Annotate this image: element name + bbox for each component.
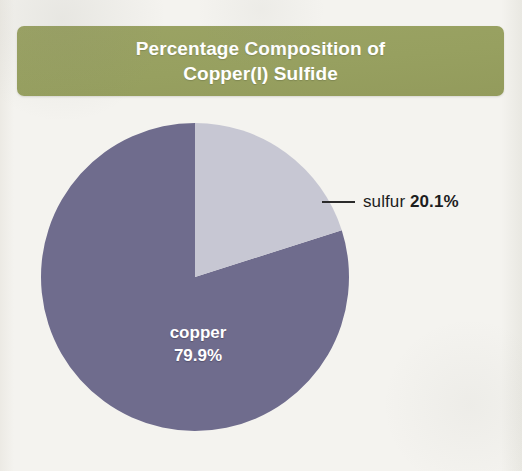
pie-chart: copper 79.9% sulfur 20.1%	[0, 100, 522, 471]
chart-title-line-2: Copper(I) Sulfide	[183, 61, 338, 86]
pie-chart-svg	[30, 112, 360, 442]
leader-line-icon	[322, 201, 355, 203]
pie-callout-sulfur: sulfur 20.1%	[322, 192, 459, 212]
chart-title-banner: Percentage Composition of Copper(I) Sulf…	[17, 26, 504, 96]
chart-title-line-1: Percentage Composition of	[136, 36, 386, 61]
pie-label-sulfur: sulfur 20.1%	[363, 192, 459, 212]
pie-label-sulfur-value: 20.1%	[410, 192, 459, 211]
pie-label-sulfur-name: sulfur	[363, 192, 405, 211]
figure-page: Percentage Composition of Copper(I) Sulf…	[0, 0, 522, 471]
pie-label-copper-value: 79.9%	[118, 344, 278, 367]
pie-label-copper-name: copper	[118, 321, 278, 344]
pie-label-copper: copper 79.9%	[118, 321, 278, 367]
